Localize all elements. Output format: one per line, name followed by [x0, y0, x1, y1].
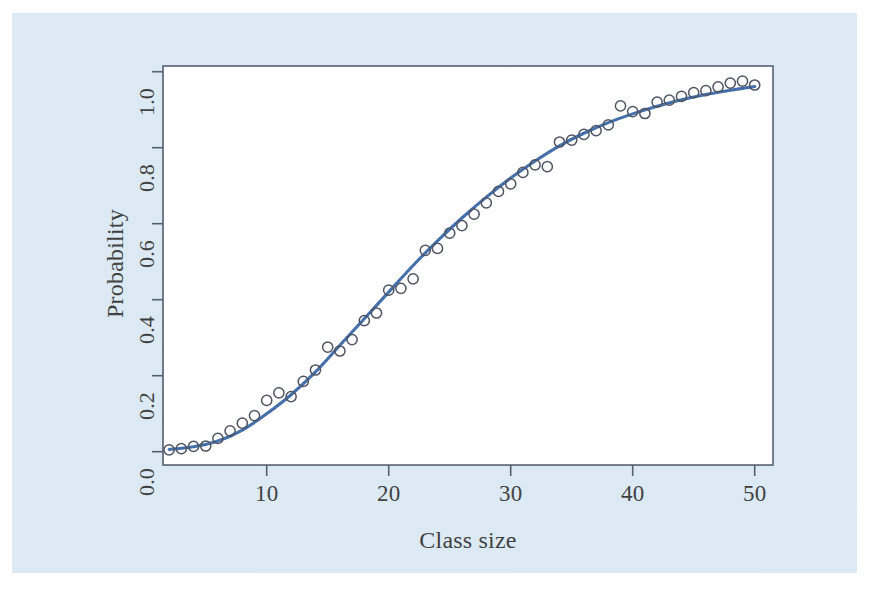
scanned-page-panel: 1020304050 0.00.20.40.60.81.0 Class size…	[12, 13, 857, 573]
x-tick-label: 30	[481, 481, 541, 507]
y-axis-title: Probability	[102, 143, 129, 383]
x-tick-label: 50	[725, 481, 785, 507]
y-tick-label: 0.6	[134, 224, 160, 284]
y-tick-label: 0.8	[134, 148, 160, 208]
x-axis-title: Class size	[348, 527, 588, 554]
x-tick-label: 10	[237, 481, 297, 507]
y-tick-label: 0.4	[134, 300, 160, 360]
y-tick-label: 0.0	[134, 452, 160, 512]
x-tick-label: 20	[359, 481, 419, 507]
figure-page: 1020304050 0.00.20.40.60.81.0 Class size…	[0, 0, 869, 589]
y-tick-label: 0.2	[134, 376, 160, 436]
y-tick-label: 1.0	[134, 72, 160, 132]
x-tick-label: 40	[603, 481, 663, 507]
chart-figure: 1020304050 0.00.20.40.60.81.0 Class size…	[12, 13, 857, 573]
x-axis-ticks	[267, 465, 755, 476]
plot-background	[163, 66, 773, 465]
